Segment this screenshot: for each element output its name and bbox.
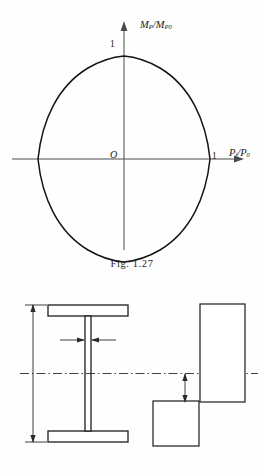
y-axis-arrowhead <box>121 21 128 31</box>
stress-block-top <box>200 304 245 402</box>
top-flange <box>48 305 128 316</box>
interaction-diagram-plot <box>0 0 264 275</box>
cross-section-and-stress-diagram <box>0 275 264 476</box>
figure-1-27: MP/MP0 Pf/P0 1 1 O Fig. 1.27 <box>0 0 264 275</box>
y-axis-label: MP/MP0 <box>140 20 172 31</box>
beta-d-dimension <box>182 373 187 403</box>
origin-label: O <box>110 150 117 160</box>
stress-block-bottom <box>153 401 199 446</box>
figure-1-28: D t βD σ0 σ0 Fig. 1.28 <box>0 275 264 476</box>
figure-1-27-caption: Fig. 1.27 <box>0 258 264 269</box>
scanned-textbook-page: MP/MP0 Pf/P0 1 1 O Fig. 1.27 <box>0 0 264 476</box>
bottom-flange <box>48 431 128 442</box>
x-axis-tick-label-1: 1 <box>212 152 217 162</box>
y-axis-tick-label-1: 1 <box>110 40 115 50</box>
x-axis-label: Pf/P0 <box>229 148 250 159</box>
